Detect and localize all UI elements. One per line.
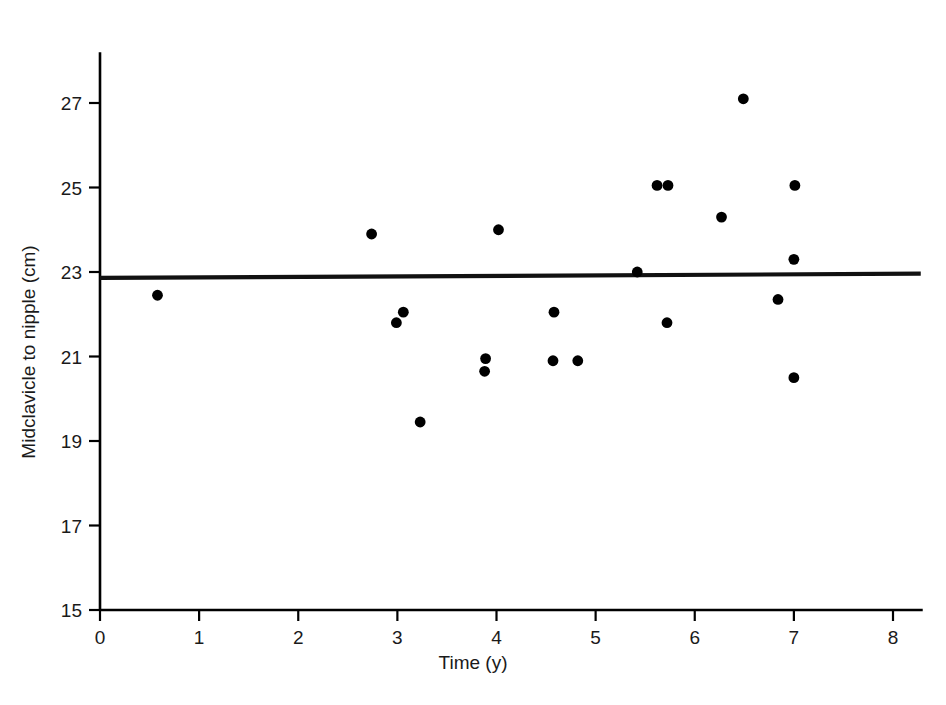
x-tick-label: 2 <box>293 628 304 647</box>
data-point <box>662 317 673 328</box>
tick-marks-group <box>89 103 893 621</box>
regression-line <box>100 274 921 278</box>
data-point <box>366 229 377 240</box>
y-tick-label: 19 <box>61 432 82 451</box>
data-point <box>415 417 426 428</box>
data-point <box>391 317 402 328</box>
data-point <box>663 180 674 191</box>
y-tick-label: 15 <box>61 601 82 620</box>
data-point <box>788 254 799 265</box>
y-tick-label: 17 <box>61 516 82 535</box>
y-tick-label: 23 <box>61 263 82 282</box>
x-tick-label: 1 <box>194 628 205 647</box>
plot-canvas <box>0 0 946 705</box>
x-tick-label: 0 <box>95 628 106 647</box>
y-tick-label: 27 <box>61 94 82 113</box>
data-point <box>738 93 749 104</box>
axes-group <box>100 52 923 610</box>
data-point <box>152 290 163 301</box>
data-points-group <box>152 93 800 427</box>
y-tick-label: 21 <box>61 347 82 366</box>
data-point <box>549 307 560 318</box>
y-tick-label: 25 <box>61 178 82 197</box>
data-point <box>548 355 559 366</box>
data-point <box>632 267 643 278</box>
x-tick-label: 3 <box>392 628 403 647</box>
data-point <box>773 294 784 305</box>
y-axis-title: Midclavicle to nipple (cm) <box>18 142 40 562</box>
scatter-plot-figure: 15171921232527 012345678 Time (y) Midcla… <box>0 0 946 705</box>
data-point <box>788 372 799 383</box>
x-tick-label: 5 <box>590 628 601 647</box>
data-point <box>480 353 491 364</box>
data-point <box>493 224 504 235</box>
x-tick-label: 7 <box>789 628 800 647</box>
data-point <box>652 180 663 191</box>
data-point <box>789 180 800 191</box>
x-tick-label: 8 <box>888 628 899 647</box>
data-point <box>479 366 490 377</box>
data-point <box>572 355 583 366</box>
data-point <box>716 212 727 223</box>
x-tick-label: 4 <box>491 628 502 647</box>
x-axis-title: Time (y) <box>0 652 946 674</box>
data-point <box>398 307 409 318</box>
trend-line-segment <box>100 274 921 278</box>
x-tick-label: 6 <box>689 628 700 647</box>
